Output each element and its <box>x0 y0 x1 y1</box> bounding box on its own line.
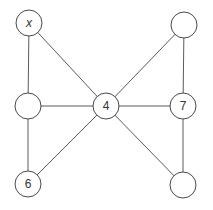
node-label: 4 <box>103 99 110 113</box>
node-middle-left <box>15 93 41 119</box>
node-label: x <box>25 16 33 30</box>
node-middle-right: 7 <box>170 93 196 119</box>
node-label: 7 <box>180 99 187 113</box>
node-top-left: x <box>16 10 42 36</box>
graph-diagram: x 4 7 6 <box>0 0 213 210</box>
node-label: 6 <box>25 177 32 191</box>
edge-c-br <box>106 106 183 185</box>
node-bottom-left: 6 <box>15 171 41 197</box>
edge-bl-c <box>28 106 106 184</box>
node-top-right <box>171 12 197 38</box>
edge-tr-c <box>106 25 184 106</box>
node-bottom-right <box>170 172 196 198</box>
node-center: 4 <box>93 93 119 119</box>
edge-tl-c <box>29 23 106 106</box>
